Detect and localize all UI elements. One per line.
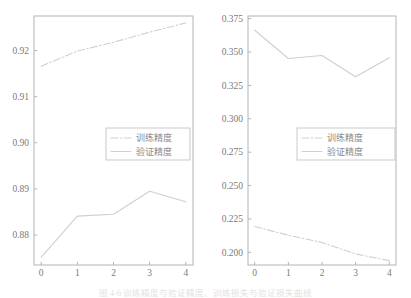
x-tick-label: 3 (353, 268, 358, 278)
y-tick-label: 0.350 (222, 47, 244, 57)
y-tick-label: 0.375 (222, 14, 244, 24)
y-tick-label: 0.325 (222, 81, 244, 91)
x-tick-label: 4 (183, 268, 188, 278)
y-tick-label: 0.250 (222, 181, 244, 191)
accuracy-chart-svg: 0.880.890.900.910.9201234训练精度验证精度 (0, 0, 205, 285)
legend-label-1: 训练精度 (136, 132, 172, 143)
figure-caption: 图 4-6 训练精度与验证精度、训练损失与验证损失曲线 (0, 286, 411, 298)
x-tick-label: 0 (252, 268, 257, 278)
x-tick-label: 3 (147, 268, 152, 278)
data-series-line-2 (41, 191, 186, 257)
x-tick-label: 2 (320, 268, 325, 278)
y-tick-label: 0.88 (12, 230, 29, 240)
y-tick-label: 0.275 (222, 147, 244, 157)
y-tick-label: 0.91 (12, 92, 29, 102)
y-tick-label: 0.89 (12, 184, 29, 194)
x-tick-label: 0 (39, 268, 44, 278)
y-tick-label: 0.300 (222, 114, 244, 124)
x-tick-label: 2 (111, 268, 116, 278)
legend-label-2: 验证精度 (136, 146, 172, 157)
legend-label-2: 验证精度 (327, 146, 363, 157)
y-tick-label: 0.225 (222, 214, 244, 224)
y-tick-label: 0.200 (222, 248, 244, 258)
x-tick-label: 1 (75, 268, 80, 278)
loss-chart-svg: 0.2000.2250.2500.2750.3000.3250.3500.375… (205, 0, 410, 285)
y-tick-label: 0.90 (12, 138, 29, 148)
data-series-line-2 (255, 30, 390, 76)
chart-panel-accuracy: 0.880.890.900.910.9201234训练精度验证精度 (0, 0, 205, 285)
data-series-line-1 (41, 23, 186, 66)
y-tick-label: 0.92 (12, 46, 29, 56)
data-series-line-1 (255, 227, 390, 261)
chart-panel-loss: 0.2000.2250.2500.2750.3000.3250.3500.375… (205, 0, 410, 285)
x-tick-label: 4 (387, 268, 392, 278)
legend-label-1: 训练精度 (327, 132, 363, 143)
x-tick-label: 1 (286, 268, 291, 278)
